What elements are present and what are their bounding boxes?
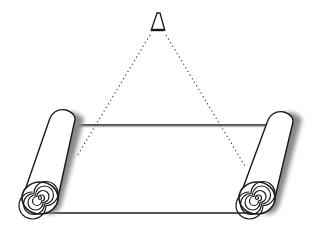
left-sight-line — [77, 35, 150, 156]
apex-eye-icon — [151, 13, 165, 31]
left-roller — [19, 110, 84, 219]
right-roller — [236, 112, 302, 219]
right-sight-line — [166, 35, 245, 166]
scroll-diagram — [0, 0, 318, 235]
